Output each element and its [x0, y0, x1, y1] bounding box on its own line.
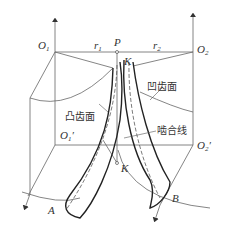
label-convex-surface: 凸齿面	[65, 112, 95, 122]
label-o2-prime: O2′	[197, 140, 211, 153]
label-o2: O2	[197, 44, 208, 57]
label-a: A	[48, 205, 55, 216]
label-concave-surface: 凹齿面	[147, 82, 177, 92]
label-r2: r2	[153, 40, 161, 53]
label-k-bottom: K	[121, 163, 128, 174]
convex-tooth	[66, 62, 122, 218]
label-p: P	[114, 37, 121, 48]
diagram-canvas	[0, 0, 226, 237]
label-r1: r1	[94, 40, 102, 53]
label-o1-prime: O1′	[60, 130, 74, 143]
label-line-of-action: 啮合线	[157, 126, 187, 136]
gear-mesh-diagram: O1 r1 P r2 O2 K 凹齿面 凸齿面 O1′ 啮合线 O2′ K A …	[0, 0, 226, 237]
label-k-top: K	[124, 56, 131, 67]
label-o1: O1	[38, 40, 49, 53]
label-b: B	[172, 193, 179, 204]
